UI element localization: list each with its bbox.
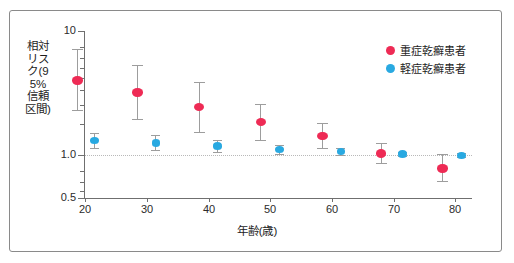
y-tick-minor	[80, 90, 85, 91]
chart-legend: 重症乾癬患者 軽症乾癬患者	[386, 42, 466, 78]
error-bar-cap-upper	[437, 154, 448, 155]
y-tick-minor	[80, 191, 85, 192]
x-tick-80	[455, 199, 456, 202]
x-tick-30	[147, 199, 148, 202]
y-tick-minor	[80, 58, 85, 59]
x-axis-line	[84, 198, 472, 199]
error-bar-cap-upper	[317, 123, 328, 124]
y-tick-label-05: 0.5	[46, 191, 76, 203]
x-tick-label-60: 60	[317, 203, 347, 215]
error-bar-cap-lower	[72, 110, 83, 111]
data-point-severe	[132, 88, 142, 96]
y-tick-major-05	[78, 198, 85, 199]
error-bar-cap-upper	[90, 133, 99, 134]
error-bar-cap-lower	[151, 150, 160, 151]
data-point-severe	[437, 164, 447, 172]
data-point-mild	[398, 150, 407, 157]
data-point-mild	[275, 146, 284, 153]
error-bar-cap-lower	[437, 181, 448, 182]
error-bar-cap-lower	[90, 148, 99, 149]
error-bar-cap-lower	[317, 148, 328, 149]
legend-label-mild: 軽症乾癬患者	[400, 60, 466, 76]
y-tick-major-1	[78, 155, 85, 156]
error-bar-cap-lower	[194, 132, 205, 133]
y-tick-label-10: 10	[46, 24, 76, 36]
x-tick-20	[85, 199, 86, 202]
x-tick-50	[270, 199, 271, 202]
error-bar-cap-upper	[213, 140, 222, 141]
y-tick-minor	[80, 171, 85, 172]
y-tick-minor	[80, 182, 85, 183]
legend-label-severe: 重症乾癬患者	[400, 42, 466, 58]
reference-line-1	[84, 155, 472, 156]
data-point-severe	[194, 103, 204, 111]
x-tick-40	[209, 199, 210, 202]
error-bar-cap-lower	[376, 163, 387, 164]
relative-risk-scatter-chart: 相対リスク(95%信頼区間) 10 1.0 0.5 20 30 40 50 60…	[0, 0, 514, 263]
error-bar-cap-upper	[132, 65, 143, 66]
x-tick-label-70: 70	[379, 203, 409, 215]
data-point-mild	[90, 137, 99, 144]
x-tick-label-80: 80	[440, 203, 470, 215]
y-tick-minor	[80, 68, 85, 69]
y-tick-minor	[80, 47, 85, 48]
x-tick-label-40: 40	[194, 203, 224, 215]
error-bar-cap-lower	[336, 155, 345, 156]
data-point-mild	[152, 139, 161, 146]
y-tick-label-1: 1.0	[46, 148, 76, 160]
x-tick-label-30: 30	[132, 203, 162, 215]
legend-marker-severe-icon	[386, 46, 395, 55]
data-point-severe	[256, 118, 266, 126]
legend-item-severe: 重症乾癬患者	[386, 42, 466, 58]
y-axis-title: 相対リスク(95%信頼区間)	[25, 40, 51, 116]
error-bar-cap-upper	[151, 135, 160, 136]
y-tick-major-10	[78, 31, 85, 32]
x-tick-label-20: 20	[70, 203, 100, 215]
x-tick-70	[394, 199, 395, 202]
data-point-mild	[213, 142, 222, 149]
error-bar-cap-lower	[275, 154, 284, 155]
legend-marker-mild-icon	[386, 64, 395, 73]
legend-item-mild: 軽症乾癬患者	[386, 60, 466, 76]
error-bar-cap-upper	[376, 143, 387, 144]
x-tick-60	[332, 199, 333, 202]
x-axis-title: 年齢(歳)	[0, 222, 514, 238]
y-tick-minor	[80, 124, 85, 125]
data-point-severe	[317, 132, 327, 140]
data-point-severe	[376, 149, 386, 157]
data-point-severe	[72, 76, 82, 84]
error-bar-cap-lower	[213, 152, 222, 153]
y-tick-minor	[80, 105, 85, 106]
error-bar-cap-upper	[72, 49, 83, 50]
x-tick-label-50: 50	[255, 203, 285, 215]
error-bar-cap-lower	[132, 119, 143, 120]
data-point-mild	[457, 152, 466, 159]
error-bar-cap-lower	[255, 140, 266, 141]
y-axis-line	[84, 31, 85, 199]
error-bar-cap-upper	[255, 104, 266, 105]
error-bar-cap-upper	[194, 82, 205, 83]
